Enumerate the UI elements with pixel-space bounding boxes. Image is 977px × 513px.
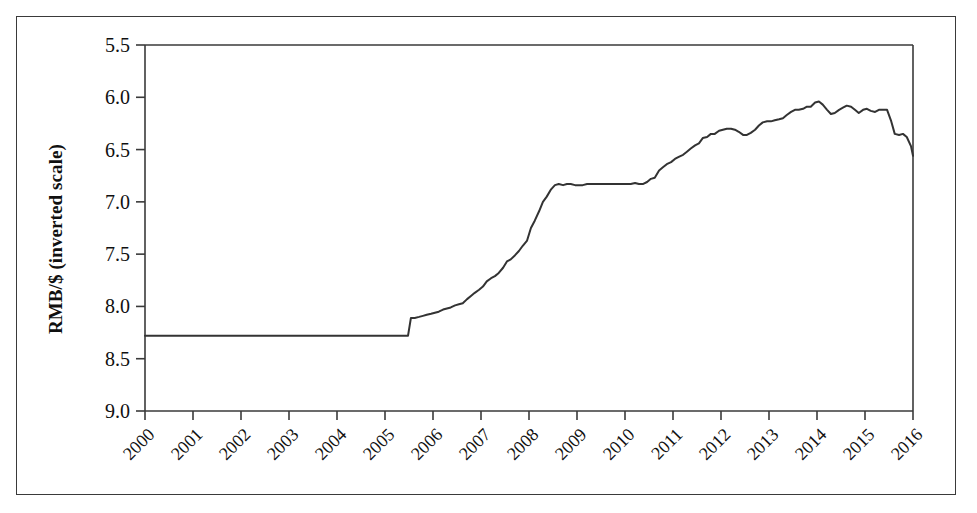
y-axis-tick-label: 6.0	[74, 87, 130, 107]
y-axis-tick-label: 8.0	[74, 296, 130, 316]
y-axis-tick-label: 8.5	[74, 349, 130, 369]
y-axis-title: RMB/$ (inverted scale)	[45, 89, 67, 389]
figure-container: RMB/$ (inverted scale) 5.56.06.57.07.58.…	[0, 0, 977, 513]
y-axis-tick-label: 5.5	[74, 35, 130, 55]
y-axis-tick-label: 7.0	[74, 192, 130, 212]
axis-lines	[145, 45, 913, 411]
y-axis-tick-label: 6.5	[74, 140, 130, 160]
data-series-line	[145, 101, 913, 335]
y-axis-tick-label: 7.5	[74, 244, 130, 264]
y-axis-tick-label: 9.0	[74, 401, 130, 421]
y-axis-ticks	[136, 45, 145, 411]
plot-area: RMB/$ (inverted scale) 5.56.06.57.07.58.…	[0, 0, 977, 513]
x-axis-ticks	[145, 411, 913, 420]
